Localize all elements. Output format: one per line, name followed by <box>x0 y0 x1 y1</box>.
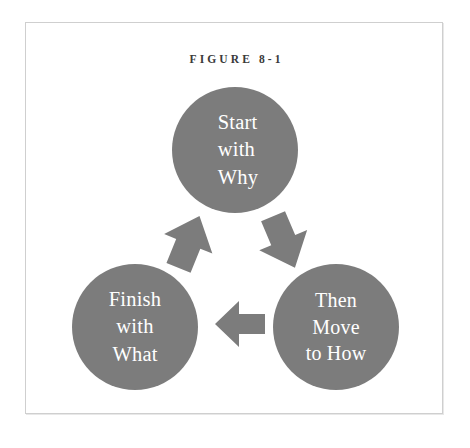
arrow-start-to-move-icon <box>253 211 315 273</box>
arrow-move-to-finish-icon <box>213 299 267 349</box>
node-then-move-to-how-label: Then Move to How <box>306 287 367 367</box>
cycle-diagram: Start with Why Finish with What Then Mov… <box>0 0 470 448</box>
node-finish-with-what-label: Finish with What <box>109 286 161 368</box>
node-finish-with-what: Finish with What <box>72 264 198 390</box>
node-start-with-why: Start with Why <box>172 87 298 213</box>
node-then-move-to-how: Then Move to How <box>273 264 399 390</box>
node-start-with-why-label: Start with Why <box>212 109 258 191</box>
arrow-finish-to-start-icon <box>158 211 220 273</box>
figure-root: FIGURE 8-1 Start with Why Finish with Wh… <box>0 0 470 448</box>
